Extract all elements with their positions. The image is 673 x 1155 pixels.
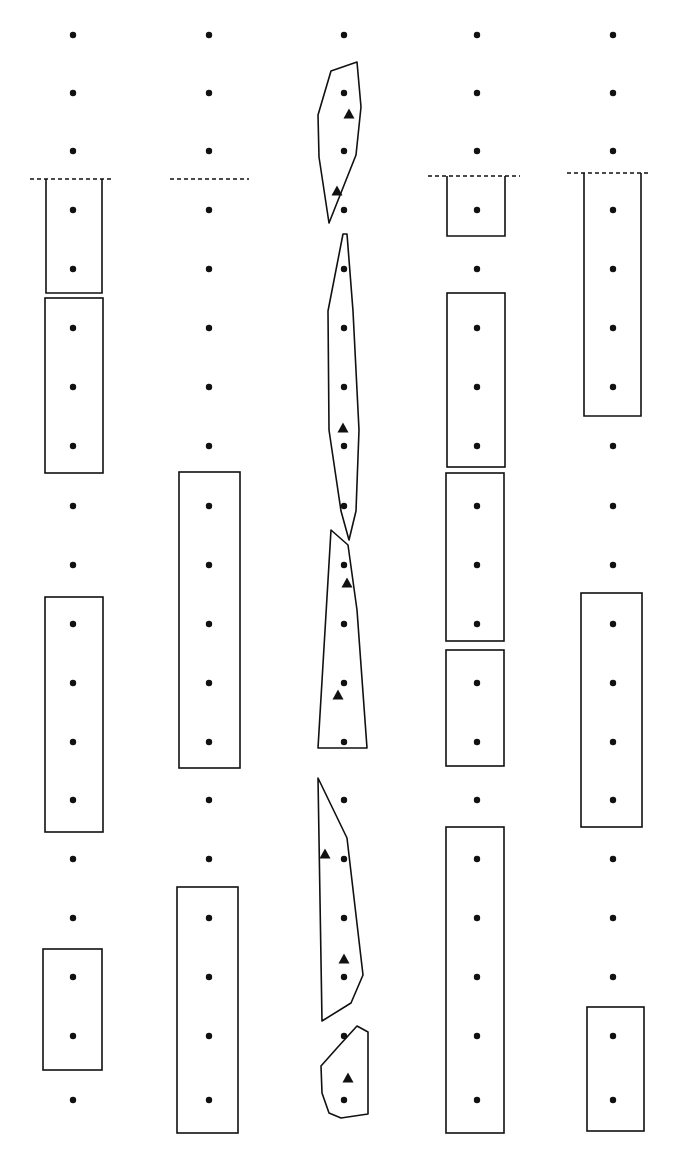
dot [206, 32, 212, 38]
dot [70, 621, 76, 627]
dot [341, 207, 347, 213]
dot [610, 325, 616, 331]
dot [341, 1033, 347, 1039]
group-box [45, 597, 103, 832]
dot [206, 266, 212, 272]
dot [70, 443, 76, 449]
dot-column-diagram [0, 0, 673, 1155]
dot [341, 1097, 347, 1103]
dot [206, 797, 212, 803]
dot [341, 443, 347, 449]
dot [610, 443, 616, 449]
dot [474, 148, 480, 154]
dot [70, 266, 76, 272]
dot [70, 797, 76, 803]
dot [474, 739, 480, 745]
group-box [177, 887, 238, 1133]
triangle-marker-icon [343, 1073, 354, 1083]
dot [70, 90, 76, 96]
triangle-marker-icon [338, 423, 349, 433]
dot [206, 90, 212, 96]
dot [341, 503, 347, 509]
dot [70, 915, 76, 921]
dot [474, 621, 480, 627]
dashed-baselines [30, 173, 648, 179]
group-box [581, 593, 642, 827]
dot [70, 562, 76, 568]
dot [206, 974, 212, 980]
dot [70, 503, 76, 509]
dot [206, 1097, 212, 1103]
group-box [587, 1007, 644, 1131]
dot [206, 207, 212, 213]
group-box [446, 827, 504, 1133]
dot [610, 384, 616, 390]
open-group-box [46, 179, 102, 293]
dot-grid [70, 32, 616, 1103]
group-box [447, 293, 505, 467]
dot [70, 974, 76, 980]
triangle-marker-icon [320, 849, 331, 859]
dot [610, 739, 616, 745]
dot [70, 207, 76, 213]
dot [474, 974, 480, 980]
dot [341, 32, 347, 38]
dot [206, 915, 212, 921]
dot [474, 680, 480, 686]
dot [610, 266, 616, 272]
triangle-marker-icon [333, 690, 344, 700]
triangle-marker-icon [342, 578, 353, 588]
dot [70, 739, 76, 745]
dot [341, 562, 347, 568]
dot [70, 1033, 76, 1039]
dot [206, 739, 212, 745]
dot [610, 621, 616, 627]
dot [70, 384, 76, 390]
dot [610, 856, 616, 862]
dot [206, 680, 212, 686]
group-box [43, 949, 102, 1070]
dot [341, 856, 347, 862]
dot [70, 148, 76, 154]
dot [474, 266, 480, 272]
dot [610, 207, 616, 213]
dot [206, 856, 212, 862]
dot [341, 680, 347, 686]
triangle-marker-icon [344, 109, 355, 119]
dot [474, 915, 480, 921]
dot [474, 1097, 480, 1103]
dot [341, 739, 347, 745]
dot [341, 974, 347, 980]
dot [474, 384, 480, 390]
dot [610, 148, 616, 154]
dot [610, 562, 616, 568]
dot [474, 207, 480, 213]
dot [341, 325, 347, 331]
group-box [446, 650, 504, 766]
dot [474, 90, 480, 96]
dot [341, 266, 347, 272]
dot [474, 562, 480, 568]
dot [341, 621, 347, 627]
dot [70, 32, 76, 38]
dot [206, 1033, 212, 1039]
dot [206, 325, 212, 331]
dot [610, 1033, 616, 1039]
grouping-shapes [43, 62, 644, 1133]
dot [206, 503, 212, 509]
dot [474, 797, 480, 803]
dot [70, 325, 76, 331]
dot [610, 503, 616, 509]
dot [474, 325, 480, 331]
dot [610, 797, 616, 803]
group-box [179, 472, 240, 768]
open-group-box [447, 176, 505, 236]
dot [206, 384, 212, 390]
group-polygon [318, 62, 361, 223]
dot [610, 915, 616, 921]
dot [610, 1097, 616, 1103]
dot [610, 90, 616, 96]
dot [474, 32, 480, 38]
dot [474, 1033, 480, 1039]
dot [206, 621, 212, 627]
